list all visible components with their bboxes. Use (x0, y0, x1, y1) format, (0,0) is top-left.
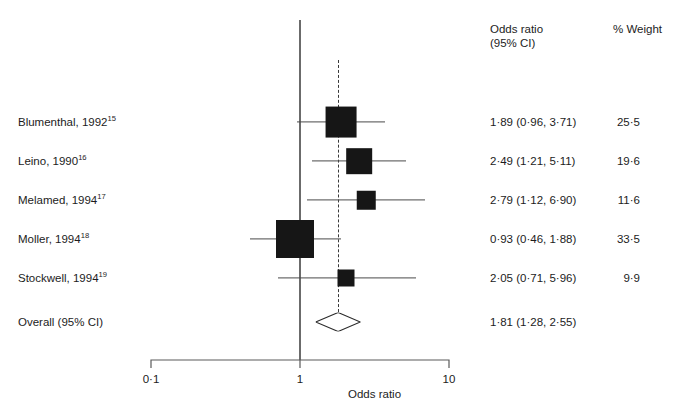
x-axis-tick-label: 10 (443, 373, 456, 385)
forest-plot: Odds ratio (95% CI) % Weight Blumenthal,… (0, 0, 674, 408)
x-axis (0, 0, 674, 408)
x-axis-title: Odds ratio (348, 388, 401, 400)
x-axis-tick-label: 1 (297, 373, 303, 385)
x-axis-tick-label: 0·1 (143, 373, 160, 385)
